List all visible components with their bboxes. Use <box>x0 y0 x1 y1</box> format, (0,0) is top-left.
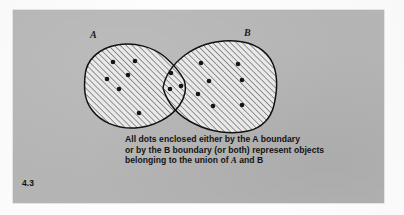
caption-line-3-prefix: belonging to the union of <box>125 155 231 165</box>
caption-line-3: belonging to the union of A and B <box>125 155 375 166</box>
caption-line-3-suffix: and B <box>237 155 263 165</box>
dot <box>196 92 201 97</box>
set-b-fill <box>153 30 293 145</box>
figure-panel: A B All dots enclosed either by the A bo… <box>13 10 384 203</box>
set-b-label: B <box>244 27 251 38</box>
dot <box>111 60 116 65</box>
dot <box>169 71 174 76</box>
caption-line-2: or by the B boundary (or both) represent… <box>125 145 375 156</box>
dot <box>133 59 138 64</box>
figure-page: A B All dots enclosed either by the A bo… <box>0 0 404 215</box>
dot <box>207 79 212 84</box>
dot <box>179 84 184 89</box>
dot <box>168 87 173 92</box>
dot <box>105 77 110 82</box>
dot <box>126 73 131 78</box>
venn-diagram <box>13 10 384 203</box>
dot <box>199 61 204 66</box>
dot <box>211 104 216 109</box>
figure-number: 4.3 <box>22 178 34 188</box>
dot <box>117 87 122 92</box>
dot <box>137 111 142 116</box>
dot <box>240 103 245 108</box>
dot <box>240 78 245 83</box>
figure-caption: All dots enclosed either by the A bounda… <box>125 134 375 166</box>
set-a-label: A <box>90 29 97 40</box>
caption-line-1: All dots enclosed either by the A bounda… <box>125 134 375 145</box>
dot <box>236 62 241 67</box>
